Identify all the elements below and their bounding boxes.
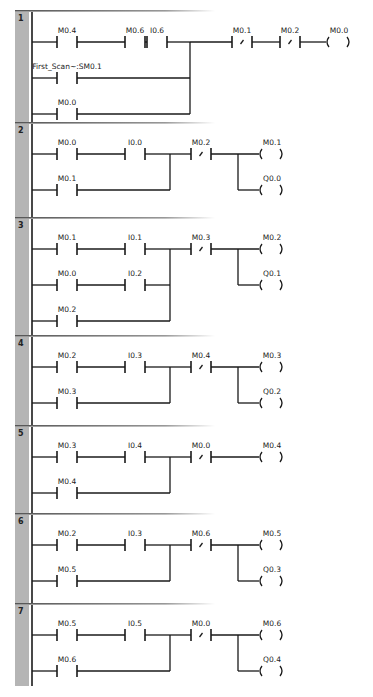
nc-slash: [200, 633, 203, 637]
contact-label: I0.3: [128, 529, 142, 538]
rung-branch: M0.2I0.3: [32, 351, 170, 373]
output-coil: Q0.3: [260, 565, 282, 586]
coil-left-arc: [260, 666, 262, 676]
rung-branch: M0.3I0.4: [32, 441, 170, 463]
contact-label: M0.1: [58, 233, 77, 242]
no-contact: M0.5: [57, 619, 77, 641]
no-contact: I0.3: [125, 351, 145, 373]
output-coil: M0.0: [327, 26, 349, 47]
no-contact: M0.0: [57, 138, 77, 160]
rung-branch: M0.5I0.5: [32, 619, 170, 641]
contact-label: I0.4: [128, 441, 142, 450]
nc-slash: [200, 543, 203, 547]
contact-label: M0.2: [192, 138, 211, 147]
no-contact: I0.1: [125, 233, 145, 255]
network-number: 4: [18, 339, 24, 348]
network-number: 7: [18, 607, 24, 616]
coil-left-arc: [260, 362, 262, 372]
no-contact: M0.4: [57, 477, 77, 499]
no-contact: M0.2: [57, 305, 77, 327]
rung-branch: M0.1: [32, 174, 170, 196]
rung-branch: M0.2I0.3: [32, 529, 170, 551]
contact-label: M0.0: [58, 138, 77, 147]
rung-branch: M0.5: [32, 565, 170, 587]
contact-label: I0.0: [128, 138, 142, 147]
coil-left-arc: [260, 149, 262, 159]
network-separator: [15, 513, 215, 515]
network-6: 6M0.2I0.3M0.5M0.6M0.5Q0.3: [15, 513, 282, 604]
network-1: 1M0.4M0.6I0.6First_Scan~:SM0.1M0.0M0.1M0…: [15, 10, 349, 123]
nc-contact: M0.4: [191, 351, 211, 373]
nc-slash: [289, 40, 292, 44]
output-coil: M0.3: [260, 351, 282, 372]
coil-right-arc: [280, 149, 282, 159]
output-coil: Q0.2: [260, 387, 282, 408]
rung-branch: M0.0I0.2: [32, 269, 170, 291]
contact-label: I0.5: [128, 619, 142, 628]
coil-right-arc: [280, 540, 282, 550]
contact-label: M0.4: [192, 351, 211, 360]
contact-label: M0.0: [192, 619, 211, 628]
coil-label: Q0.4: [263, 655, 281, 664]
contact-label: M0.0: [192, 441, 211, 450]
no-contact: I0.6: [147, 26, 167, 48]
coil-left-arc: [260, 244, 262, 254]
no-contact: M0.3: [57, 387, 77, 409]
no-contact: M0.5: [57, 565, 77, 587]
nc-slash: [241, 40, 244, 44]
network-separator: [15, 122, 215, 124]
no-contact: M0.3: [57, 441, 77, 463]
coil-left-arc: [260, 452, 262, 462]
coil-right-arc: [280, 666, 282, 676]
coil-right-arc: [280, 576, 282, 586]
nc-contact: M0.2: [280, 26, 300, 48]
network-gutter: [15, 427, 29, 514]
network-gutter: [15, 219, 29, 336]
rung-branch: M0.0: [32, 98, 190, 120]
network-separator: [15, 425, 215, 427]
contact-label: M0.3: [58, 387, 77, 396]
nc-contact: M0.2: [191, 138, 211, 160]
network-number: 2: [18, 126, 24, 135]
contact-label: M0.0: [58, 98, 77, 107]
rung-branch: M0.1I0.1: [32, 233, 170, 255]
contact-label: M0.4: [58, 26, 77, 35]
network-2: 2M0.0I0.0M0.1M0.2M0.1Q0.0: [15, 122, 282, 218]
no-contact: M0.6: [57, 655, 77, 677]
output-coil: Q0.0: [260, 174, 282, 195]
coil-label: Q0.2: [263, 387, 281, 396]
rung-branch: M0.2: [32, 305, 170, 327]
coil-right-arc: [280, 452, 282, 462]
coil-left-arc: [260, 540, 262, 550]
contact-label: M0.0: [58, 269, 77, 278]
network-gutter: [15, 337, 29, 426]
coil-label: Q0.3: [263, 565, 281, 574]
no-contact: M0.2: [57, 351, 77, 373]
no-contact: M0.2: [57, 529, 77, 551]
nc-contact: M0.0: [191, 441, 211, 463]
nc-contact: M0.6: [191, 529, 211, 551]
contact-label: M0.1: [233, 26, 252, 35]
no-contact: I0.3: [125, 529, 145, 551]
nc-slash: [200, 455, 203, 459]
no-contact: M0.1: [57, 233, 77, 255]
rung-branch: M0.6: [32, 655, 170, 677]
contact-label: M0.2: [58, 529, 77, 538]
coil-label: M0.2: [263, 233, 282, 242]
contact-label: I0.1: [128, 233, 142, 242]
network-7: 7M0.5I0.5M0.6M0.0M0.6Q0.4: [15, 603, 282, 686]
coil-label: M0.4: [263, 441, 282, 450]
networks: 1M0.4M0.6I0.6First_Scan~:SM0.1M0.0M0.1M0…: [15, 10, 349, 686]
output-coil: M0.5: [260, 529, 282, 550]
network-gutter: [15, 12, 29, 123]
network-separator: [15, 217, 215, 219]
coil-right-arc: [280, 244, 282, 254]
contact-label: M0.3: [192, 233, 211, 242]
contact-label: M0.6: [58, 655, 77, 664]
coil-label: Q0.1: [263, 269, 281, 278]
no-contact: M0.6: [125, 26, 145, 48]
coil-right-arc: [280, 362, 282, 372]
network-separator: [15, 335, 215, 337]
no-contact: First_Scan~:SM0.1: [32, 62, 102, 84]
nc-slash: [200, 365, 203, 369]
